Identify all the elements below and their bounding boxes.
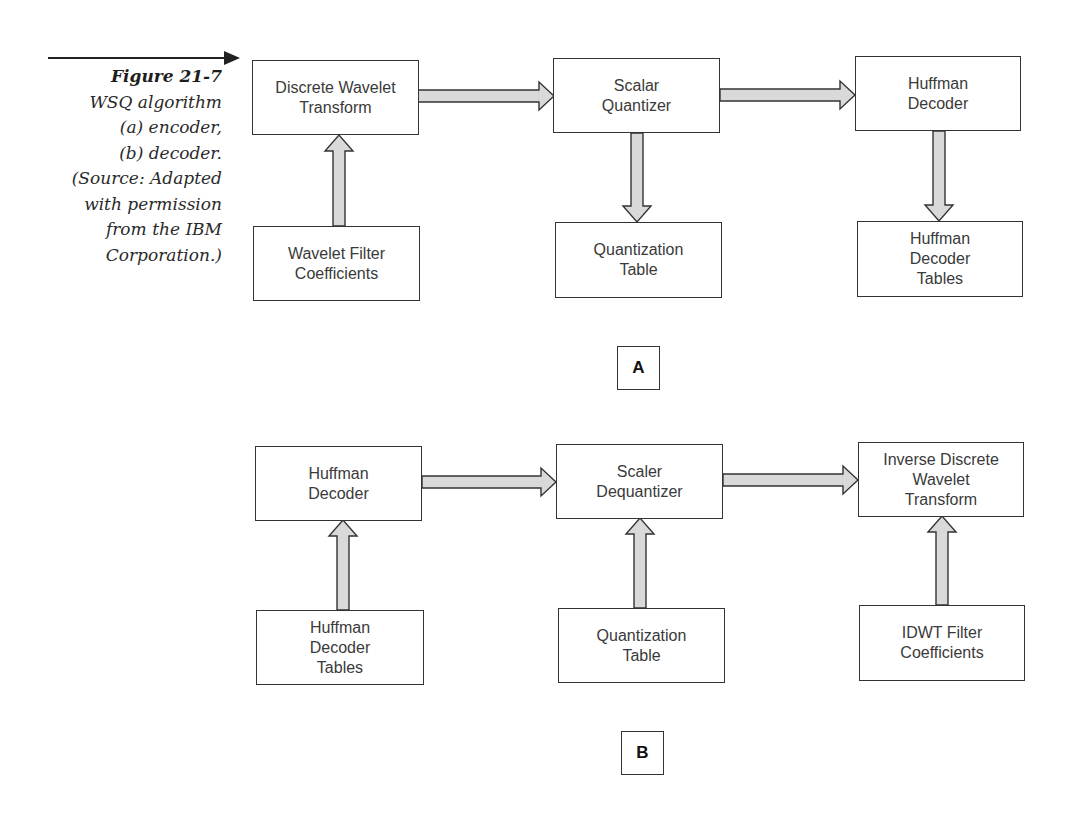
caption-line: with permission (72, 192, 222, 218)
arrow-table-to-dequantizer (626, 518, 654, 608)
box-discrete-wavelet-transform: Discrete Wavelet Transform (252, 60, 419, 135)
arrow-quantizer-to-huffman (720, 81, 855, 109)
box-inverse-discrete-wavelet-transform: Inverse Discrete Wavelet Transform (858, 442, 1024, 517)
box-scaler-dequantizer: Scaler Dequantizer (556, 444, 723, 519)
diagram-label-a: A (617, 346, 660, 390)
arrow-tables-to-huffman (329, 520, 357, 610)
box-huffman-decoder-tables: Huffman Decoder Tables (256, 610, 424, 685)
arrow-filter-to-dwt (325, 135, 353, 226)
figure-caption: Figure 21-7 WSQ algorithm (a) encoder, (… (72, 64, 222, 268)
arrow-quantizer-to-table (623, 133, 651, 222)
arrow-huffman-to-tables (925, 131, 953, 221)
box-huffman-decoder: Huffman Decoder (255, 446, 422, 521)
diagram-label-b: B (621, 731, 664, 775)
caption-line: Corporation.) (72, 243, 222, 269)
caption-line: WSQ algorithm (72, 90, 222, 116)
figure-title: Figure 21-7 (72, 64, 222, 90)
arrow-filter-to-idwt (928, 516, 956, 605)
box-scalar-quantizer: Scalar Quantizer (553, 58, 720, 133)
box-huffman-decoder: Huffman Decoder (855, 56, 1021, 131)
box-quantization-table: Quantization Table (555, 222, 722, 298)
box-huffman-decoder-tables: Huffman Decoder Tables (857, 221, 1023, 297)
box-idwt-filter-coefficients: IDWT Filter Coefficients (859, 605, 1025, 681)
arrow-dequantizer-to-idwt (723, 466, 858, 494)
arrow-dwt-to-quantizer (418, 82, 554, 110)
caption-line: (Source: Adapted (72, 166, 222, 192)
box-quantization-table: Quantization Table (558, 608, 725, 683)
caption-line: (b) decoder. (72, 141, 222, 167)
caption-line: (a) encoder, (72, 115, 222, 141)
caption-line: from the IBM (72, 217, 222, 243)
arrow-huffman-to-dequantizer (422, 468, 556, 496)
box-wavelet-filter-coefficients: Wavelet Filter Coefficients (253, 226, 420, 301)
